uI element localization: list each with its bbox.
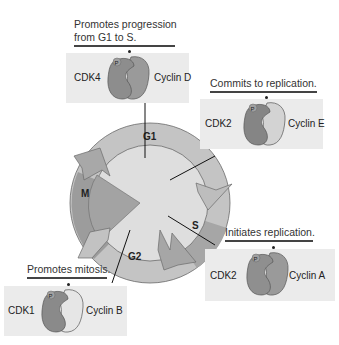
svg-text:P: P xyxy=(254,256,258,262)
phase-label-s: S xyxy=(192,220,199,231)
phase-label-m: M xyxy=(81,188,89,199)
caption-cdk1-cyclin-b: Promotes mitosis. xyxy=(27,263,110,275)
caption-underline xyxy=(210,91,317,93)
complex-box-cdk1-cyclin-b: CDK1 P Cyclin B xyxy=(4,286,127,336)
svg-text:P: P xyxy=(115,60,119,66)
caption-underline xyxy=(225,240,313,242)
protein-complex-icon: P xyxy=(104,54,154,102)
complex-box-cdk4-cyclin-d: CDK4 P Cyclin D xyxy=(66,53,189,103)
complex-box-cdk2-cyclin-a: CDK2 P Cyclin A xyxy=(205,249,335,301)
cdk-label: CDK2 xyxy=(210,270,237,281)
caption-cdk4-cyclin-d-line2: from G1 to S. xyxy=(74,31,136,43)
cdk-label: CDK1 xyxy=(8,305,35,316)
svg-text:P: P xyxy=(49,293,53,299)
caption-underline xyxy=(74,45,175,47)
protein-complex-icon: P xyxy=(240,100,290,148)
complex-box-cdk2-cyclin-e: CDK2 P Cyclin E xyxy=(200,99,323,149)
cdk-label: CDK2 xyxy=(205,118,232,129)
phase-label-g2: G2 xyxy=(128,251,142,262)
svg-text:P: P xyxy=(251,106,255,112)
cell-cycle-diagram: G1 S G2 M Promotes progression from G1 t… xyxy=(0,0,339,345)
caption-underline xyxy=(27,277,107,279)
cyclin-label: Cyclin A xyxy=(289,270,325,281)
caption-cdk4-cyclin-d-line1: Promotes progression xyxy=(74,18,177,30)
protein-complex-icon: P xyxy=(243,250,293,298)
caption-cdk2-cyclin-a: Initiates replication. xyxy=(225,226,315,238)
caption-cdk2-cyclin-e: Commits to replication. xyxy=(210,77,317,89)
cyclin-label: Cyclin B xyxy=(86,305,123,316)
cyclin-label: Cyclin D xyxy=(154,72,191,83)
protein-complex-icon: P xyxy=(38,287,88,335)
cyclin-label: Cyclin E xyxy=(288,118,325,129)
cdk-label: CDK4 xyxy=(74,72,101,83)
